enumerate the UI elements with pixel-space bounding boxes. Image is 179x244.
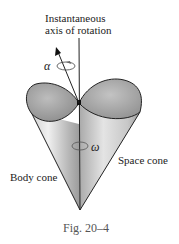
figure-caption: Fig. 20–4 xyxy=(63,222,109,234)
body-cone-top-face xyxy=(26,83,79,121)
alpha-rotation-loop-icon xyxy=(57,62,75,70)
alpha-arrow-head-icon xyxy=(55,47,61,56)
space-cone-label: Space cone xyxy=(118,154,168,166)
body-cone-label: Body cone xyxy=(10,171,57,183)
axis-label-line1: Instantaneous xyxy=(45,12,105,24)
cone-diagram xyxy=(0,0,179,244)
axis-label-line2: axis of rotation xyxy=(45,24,112,36)
omega-label: ω xyxy=(91,141,99,153)
alpha-rotation-arrow-icon xyxy=(66,61,71,64)
alpha-label: α xyxy=(44,60,50,72)
